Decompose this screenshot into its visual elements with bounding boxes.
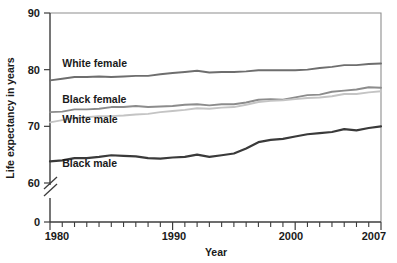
- series-label-black-male: Black male: [62, 157, 117, 169]
- y-tick-label-80: 80: [28, 64, 40, 76]
- chart-container: 90 80 70 60 0 Life expectancy in years 1…: [0, 0, 397, 263]
- x-tick-label-2000: 2000: [279, 230, 303, 242]
- x-axis-ticks: [50, 222, 381, 230]
- y-tick-label-70: 70: [28, 120, 40, 132]
- y-tick-label-90: 90: [28, 7, 40, 19]
- y-tick-label-0: 0: [34, 216, 40, 228]
- life-expectancy-line-chart: 90 80 70 60 0 Life expectancy in years 1…: [0, 0, 397, 263]
- series-label-black-female: Black female: [62, 93, 126, 105]
- series-label-white-female: White female: [62, 57, 127, 69]
- x-tick-label-2007: 2007: [362, 230, 386, 242]
- x-axis-tick-labels: 1980 1990 2000 2007: [45, 230, 386, 242]
- y-axis-tick-labels: 90 80 70 60 0: [28, 7, 40, 228]
- x-tick-label-1980: 1980: [45, 230, 69, 242]
- x-axis-title: Year: [205, 246, 227, 258]
- y-tick-label-60: 60: [28, 177, 40, 189]
- x-tick-label-1990: 1990: [162, 230, 186, 242]
- y-axis-title: Life expectancy in years: [4, 57, 16, 179]
- series-label-white-male: White male: [62, 113, 118, 125]
- series-labels-group: White femaleBlack femaleWhite maleBlack …: [62, 57, 127, 169]
